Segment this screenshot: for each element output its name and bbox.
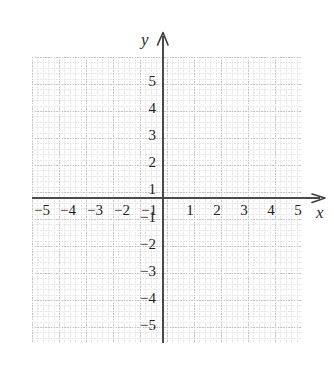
y-tick-label: 2 <box>140 155 156 170</box>
gridline-dot-mask <box>32 57 302 343</box>
x-tick-label: 3 <box>236 203 252 218</box>
x-tick-label: −5 <box>34 203 50 218</box>
x-tick-label: 1 <box>182 203 198 218</box>
coordinate-plane-figure: x y −5 −4 −3 −2 −1 1 2 3 4 5 5 4 3 2 1 −… <box>0 0 334 365</box>
x-tick-label: 5 <box>290 203 306 218</box>
y-tick-label: 5 <box>140 74 156 89</box>
x-axis-line <box>32 197 320 199</box>
x-tick-label: −4 <box>60 203 76 218</box>
x-tick-label: −2 <box>114 203 130 218</box>
y-tick-label: −2 <box>134 237 156 252</box>
x-axis-label: x <box>316 204 324 221</box>
x-tick-label: −3 <box>87 203 103 218</box>
y-tick-label: 4 <box>140 101 156 116</box>
x-tick-label: 4 <box>263 203 279 218</box>
arrow-up-icon <box>154 30 172 48</box>
grid-area <box>32 57 302 343</box>
y-axis-label: y <box>141 31 149 48</box>
y-tick-label: 1 <box>140 182 156 197</box>
y-tick-label: 3 <box>140 128 156 143</box>
y-tick-label: −1 <box>134 210 156 225</box>
y-tick-label: −5 <box>134 318 156 333</box>
y-tick-label: −3 <box>134 264 156 279</box>
y-tick-label: −4 <box>134 291 156 306</box>
x-tick-label: 2 <box>209 203 225 218</box>
y-axis-line <box>162 36 164 343</box>
